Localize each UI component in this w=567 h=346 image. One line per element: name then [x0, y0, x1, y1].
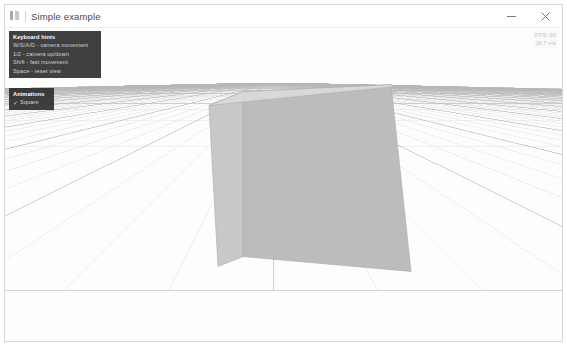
3d-viewport[interactable]: Keyboard hints W/S/A/D - camera movement… [5, 28, 562, 341]
cube-object [209, 85, 411, 272]
animations-panel-title: Animations [13, 90, 50, 98]
stats-fps: FPS: 60 [535, 32, 556, 40]
hint-row-updown: 1/2 - camera up/down [13, 50, 97, 58]
hint-row-fast: Shift - fast movement [13, 58, 97, 66]
title-separator [25, 11, 26, 22]
stats-readout: FPS: 60 16.7 ms [533, 31, 558, 48]
keyboard-hints-panel: Keyboard hints W/S/A/D - camera movement… [9, 31, 101, 78]
keyboard-hints-title: Keyboard hints [13, 33, 97, 41]
window-title: Simple example [31, 11, 101, 22]
animations-panel: Animations ✓ Square [9, 88, 54, 110]
minimize-icon [506, 11, 517, 22]
title-bar: Simple example [5, 5, 562, 28]
window-controls [494, 5, 562, 27]
app-icon [10, 11, 21, 22]
stats-frametime: 16.7 ms [535, 40, 556, 48]
application-window: Simple example [4, 4, 563, 342]
checkmark-icon: ✓ [13, 99, 18, 107]
close-icon [540, 11, 551, 22]
close-button[interactable] [528, 5, 562, 27]
app-icon-glyph [10, 11, 19, 20]
hint-row-reset: Space - reset view [13, 67, 97, 75]
animation-square-toggle[interactable]: ✓ Square [13, 98, 50, 106]
animation-square-label: Square [20, 98, 39, 106]
hint-row-movement: W/S/A/D - camera movement [13, 41, 97, 49]
minimize-button[interactable] [494, 5, 528, 27]
